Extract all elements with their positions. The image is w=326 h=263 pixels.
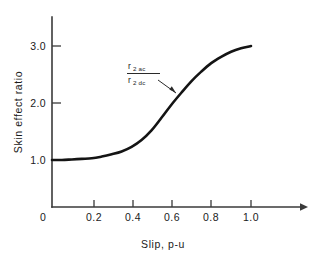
ratio-denominator-symbol: r xyxy=(128,75,131,85)
y-tick-label-2: 2.0 xyxy=(30,97,46,109)
x-tick-label-1-0: 1.0 xyxy=(243,211,259,223)
x-tick-label-0: 0 xyxy=(40,211,46,223)
chart-canvas: 3.0 2.0 1.0 Skin effect ratio 0 0.2 0.4 … xyxy=(0,0,326,263)
x-tick-label-0-8: 0.8 xyxy=(203,211,219,223)
skin-effect-curve xyxy=(52,46,251,160)
x-tick-label-0-4: 0.4 xyxy=(125,211,141,223)
ratio-denominator-subscript: 2 dc xyxy=(133,79,146,86)
y-tick-label-3: 3.0 xyxy=(30,40,46,52)
x-tick-label-0-6: 0.6 xyxy=(164,211,180,223)
x-axis-title: Slip, p-u xyxy=(141,238,185,250)
annotation-arrowhead xyxy=(169,86,176,93)
ratio-numerator-symbol: r xyxy=(128,61,131,71)
ratio-numerator-subscript: 2 ac xyxy=(133,65,146,72)
x-axis-arrowhead xyxy=(300,203,308,211)
x-tick-label-0-2: 0.2 xyxy=(86,211,102,223)
y-tick-label-1: 1.0 xyxy=(30,154,46,166)
y-axis-title: Skin effect ratio xyxy=(12,71,24,153)
skin-effect-ratio-figure: 3.0 2.0 1.0 Skin effect ratio 0 0.2 0.4 … xyxy=(0,0,326,263)
x-axis: 0 0.2 0.4 0.6 0.8 1.0 Slip, p-u xyxy=(40,200,308,250)
y-axis: 3.0 2.0 1.0 Skin effect ratio xyxy=(12,17,61,207)
resistance-ratio-annotation: r 2 ac r 2 dc xyxy=(127,61,176,93)
